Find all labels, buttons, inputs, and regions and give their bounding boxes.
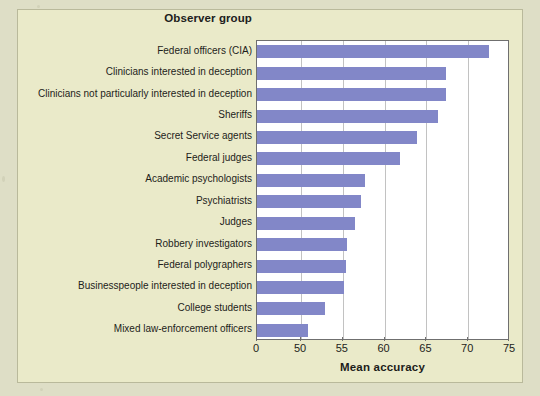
bar bbox=[257, 302, 325, 315]
category-label: Sheriffs bbox=[2, 109, 252, 120]
scan-speckle bbox=[40, 388, 43, 391]
bar bbox=[257, 67, 446, 80]
category-label: Judges bbox=[2, 216, 252, 227]
bar bbox=[257, 238, 347, 251]
category-label: Clinicians interested in deception bbox=[2, 66, 252, 77]
x-axis-ticks: 0505560657075 bbox=[256, 342, 509, 358]
tick-mark-65 bbox=[425, 337, 426, 341]
plot-area bbox=[256, 40, 509, 340]
bar bbox=[257, 110, 438, 123]
chart-title: Observer group bbox=[0, 12, 252, 24]
category-label: Clinicians not particularly interested i… bbox=[2, 88, 252, 99]
x-tick-label-55: 55 bbox=[336, 342, 348, 354]
x-tick-label-0: 0 bbox=[253, 342, 259, 354]
tick-mark-60 bbox=[384, 337, 385, 341]
tick-mark-55 bbox=[342, 337, 343, 341]
x-tick-label-60: 60 bbox=[377, 342, 389, 354]
bar bbox=[257, 195, 361, 208]
category-label: College students bbox=[2, 302, 252, 313]
category-label: Federal judges bbox=[2, 152, 252, 163]
category-label: Federal polygraphers bbox=[2, 259, 252, 270]
bar bbox=[257, 45, 489, 58]
figure-page: Observer group Federal officers (CIA)Cli… bbox=[0, 0, 540, 396]
scan-speckle bbox=[37, 5, 40, 8]
bar bbox=[257, 281, 344, 294]
bar bbox=[257, 174, 365, 187]
bar bbox=[257, 131, 417, 144]
tick-mark-0 bbox=[256, 337, 257, 341]
bar-series bbox=[257, 41, 508, 339]
tick-mark-50 bbox=[300, 337, 301, 341]
bar bbox=[257, 217, 355, 230]
category-label: Academic psychologists bbox=[2, 173, 252, 184]
tick-mark-70 bbox=[467, 337, 468, 341]
category-label: Robbery investigators bbox=[2, 238, 252, 249]
category-label: Secret Service agents bbox=[2, 130, 252, 141]
bar bbox=[257, 260, 346, 273]
bar bbox=[257, 88, 446, 101]
x-axis-label: Mean accuracy bbox=[256, 361, 509, 373]
category-label: Federal officers (CIA) bbox=[2, 45, 252, 56]
category-axis-labels: Federal officers (CIA)Clinicians interes… bbox=[0, 40, 252, 340]
bar bbox=[257, 152, 400, 165]
category-label: Psychiatrists bbox=[2, 195, 252, 206]
x-tick-label-50: 50 bbox=[294, 342, 306, 354]
x-tick-label-70: 70 bbox=[461, 342, 473, 354]
x-tick-label-75: 75 bbox=[503, 342, 515, 354]
category-label: Businesspeople interested in deception bbox=[2, 280, 252, 291]
tick-mark-75 bbox=[508, 337, 509, 341]
category-label: Mixed law-enforcement officers bbox=[2, 323, 252, 334]
x-tick-label-65: 65 bbox=[419, 342, 431, 354]
bar bbox=[257, 324, 308, 337]
